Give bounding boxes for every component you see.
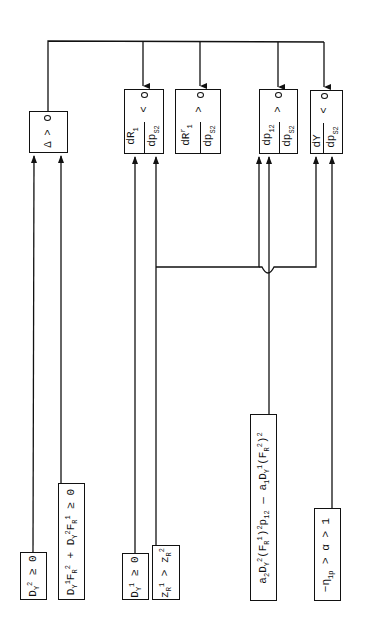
dY-decision-box: < dY dpS2: [310, 90, 343, 154]
condition-a-text: a2DY2(FR1)2p12 — a1DY1(FR2)2: [256, 432, 271, 583]
comparator-symbol: <: [319, 107, 330, 113]
wire-z-to-dY: [259, 157, 316, 273]
comparator-symbol: >: [43, 129, 54, 135]
delta-symbol: Δ: [43, 141, 54, 147]
condition-dy1-box: DY1 ≥ 0: [122, 553, 149, 600]
numerator-dY: dY: [312, 134, 323, 147]
denominator-dpS2: dpS2: [203, 125, 216, 147]
condition-dy1-text: DY1 ≥ 0: [128, 556, 143, 597]
condition-a-box: a2DY2(FR1)2p12 — a1DY1(FR2)2: [250, 414, 277, 601]
fraction-divider: [279, 122, 280, 154]
comparator-symbol: >: [194, 106, 205, 112]
denominator-dpS2: dpS2: [282, 125, 295, 147]
fraction-divider: [200, 122, 201, 154]
numerator-dRr1: dRr1: [180, 124, 195, 146]
wire-dy2-to-delta: [33, 156, 34, 553]
numerator-dp12: dp12: [262, 124, 275, 146]
condition-dy2-box: DY2 ≥ 0: [20, 552, 47, 600]
condition-z-box: zR1 > zR2: [152, 545, 180, 600]
condition-z-text: zR1 > zR2: [159, 548, 174, 598]
condition-eta-text: −η1p > α > 1: [321, 517, 334, 591]
denominator-dpS2: dpS2: [147, 125, 160, 147]
negation-bubble: [321, 93, 328, 99]
condition-dyf-box: DY1FR2 + DY2FR1 ≥ 0: [58, 483, 85, 600]
condition-dyf-text: DY1FR2 + DY2FR1 ≥ 0: [64, 488, 79, 594]
numerator-dR1: dR1: [126, 127, 139, 144]
condition-dy2-text: DY2 ≥ 0: [26, 555, 41, 596]
fraction-divider: [323, 123, 324, 154]
comparator-symbol: >: [273, 106, 284, 112]
dp12-decision-box: > dp12 dpS2: [259, 89, 298, 154]
condition-eta-box: −η1p > α > 1: [314, 508, 341, 601]
negation-bubble: [44, 115, 51, 121]
denominator-dpS2: dpS2: [326, 126, 339, 148]
negation-bubble: [197, 92, 204, 98]
negation-bubble: [141, 92, 148, 98]
comparator-symbol: <: [139, 106, 150, 112]
wire-z-to-dp12: [156, 157, 259, 267]
negation-bubble: [275, 92, 282, 98]
fraction-divider: [144, 122, 145, 154]
dR1-decision-box: < dR1 dpS2: [124, 89, 164, 154]
delta-decision-box: > Δ: [29, 111, 68, 153]
dRr-decision-box: > dRr1 dpS2: [175, 89, 221, 154]
